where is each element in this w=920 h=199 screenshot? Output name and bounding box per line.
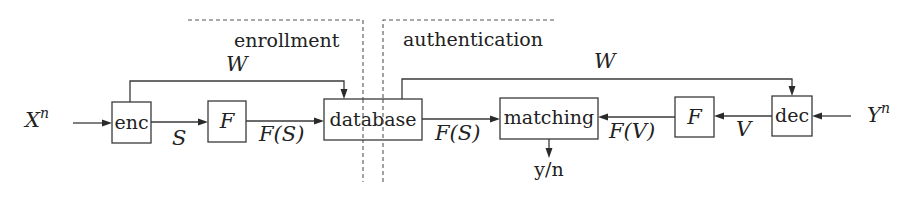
input-y-label: Yn <box>867 100 890 127</box>
input-y-arrowhead <box>812 113 822 120</box>
w-right-label: W <box>594 49 618 73</box>
database-label: database <box>330 108 417 130</box>
f-right-label: F <box>686 105 703 129</box>
matching-label: matching <box>504 106 594 128</box>
enc-label: enc <box>114 111 148 133</box>
v-label: V <box>736 117 753 141</box>
w-left-arrowhead <box>341 89 348 99</box>
fs-left-arrowhead <box>314 118 324 125</box>
v-arrowhead <box>714 113 724 120</box>
w-left-label: W <box>226 52 250 76</box>
enrollment-authentication-diagram: enrollment authentication Xn enc S F F(S… <box>0 0 920 199</box>
w-left-line <box>130 81 344 102</box>
s-label: S <box>172 126 186 150</box>
input-x-arrowhead <box>102 120 112 127</box>
output-arrowhead <box>546 148 553 158</box>
authentication-label: authentication <box>403 28 543 50</box>
output-label: y/n <box>533 158 563 180</box>
w-right-line <box>402 79 792 99</box>
s-arrowhead <box>198 119 208 126</box>
fs-left-label: F(S) <box>258 122 304 146</box>
input-x-label: Xn <box>23 105 49 132</box>
fv-label: F(V) <box>608 119 655 143</box>
f-left-label: F <box>219 109 236 133</box>
fv-arrowhead <box>598 114 608 121</box>
fs-right-arrowhead <box>490 116 500 123</box>
w-right-arrowhead <box>789 86 796 96</box>
fs-right-label: F(S) <box>434 121 480 145</box>
enrollment-label: enrollment <box>234 29 340 51</box>
dec-label: dec <box>775 104 809 126</box>
